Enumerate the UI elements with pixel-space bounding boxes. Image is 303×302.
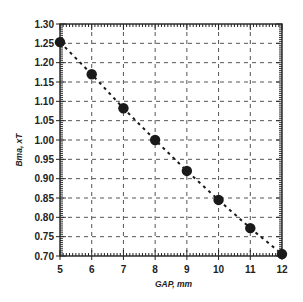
- y-tick-label: 1.30: [35, 19, 55, 30]
- chart: 0.700.750.800.850.900.951.001.051.101.15…: [0, 0, 303, 302]
- y-axis-label: Bma, xT: [14, 133, 24, 167]
- y-tick-label: 1.20: [35, 57, 55, 68]
- x-tick-label: 11: [245, 264, 256, 275]
- x-axis-label: GAP, mm: [155, 279, 193, 289]
- x-tick-labels: 56789101112: [57, 264, 288, 275]
- data-point: [118, 103, 128, 113]
- x-tick-label: 7: [121, 264, 127, 275]
- data-point: [245, 223, 255, 233]
- data-point: [213, 195, 223, 205]
- data-point: [182, 166, 192, 176]
- grid: [60, 24, 282, 256]
- x-tick-label: 6: [89, 264, 95, 275]
- y-tick-label: 0.80: [35, 212, 55, 223]
- x-tick-label: 8: [152, 264, 158, 275]
- y-tick-label: 0.75: [35, 231, 55, 242]
- x-tick-label: 12: [276, 264, 288, 275]
- y-tick-label: 0.85: [35, 193, 55, 204]
- x-tick-label: 10: [213, 264, 225, 275]
- y-tick-labels: 0.700.750.800.850.900.951.001.051.101.15…: [35, 19, 55, 262]
- x-tick-label: 9: [184, 264, 190, 275]
- y-tick-label: 1.10: [35, 96, 55, 107]
- y-tick-label: 1.15: [35, 77, 55, 88]
- y-tick-label: 1.05: [35, 115, 55, 126]
- data-point: [277, 249, 287, 259]
- data-point: [150, 135, 160, 145]
- y-tick-label: 0.70: [35, 251, 55, 262]
- x-tick-label: 5: [57, 264, 63, 275]
- y-tick-label: 1.00: [35, 135, 55, 146]
- data-point: [55, 37, 65, 47]
- data-point: [87, 69, 97, 79]
- y-tick-label: 0.90: [35, 173, 55, 184]
- y-tick-label: 0.95: [35, 154, 55, 165]
- y-tick-label: 1.25: [35, 38, 55, 49]
- data-series: [55, 37, 287, 259]
